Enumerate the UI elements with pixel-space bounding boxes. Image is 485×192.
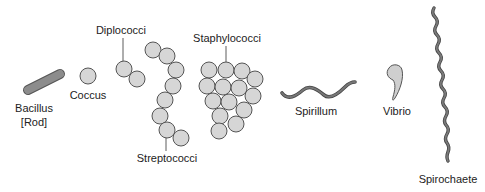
- vibrio-shape: [387, 65, 402, 100]
- diplococci-shape: [116, 38, 145, 87]
- bacillus-sublabel: [Rod]: [21, 116, 47, 128]
- spirochaete-label: Spirochaete: [419, 173, 478, 185]
- streptococci-label: Streptococci: [137, 152, 198, 164]
- vibrio-label: Vibrio: [383, 105, 411, 117]
- spirochaete-shape: [433, 8, 449, 161]
- staphylococci-shape: [199, 46, 263, 139]
- staphylococci-label: Staphylococci: [193, 32, 261, 44]
- bacillus-label: Bacillus: [15, 102, 53, 114]
- coccus-label: Coccus: [70, 89, 107, 101]
- spirillum-label: Spirillum: [295, 105, 337, 117]
- streptococci-shape: [145, 42, 189, 151]
- spirillum-shape: [282, 82, 355, 97]
- bacteria-shapes-diagram: Bacillus [Rod] Coccus Diplococci Strepto…: [0, 0, 485, 192]
- diplococci-label: Diplococci: [96, 24, 146, 36]
- coccus-shape: [80, 68, 96, 84]
- bacillus-shape: [28, 74, 60, 90]
